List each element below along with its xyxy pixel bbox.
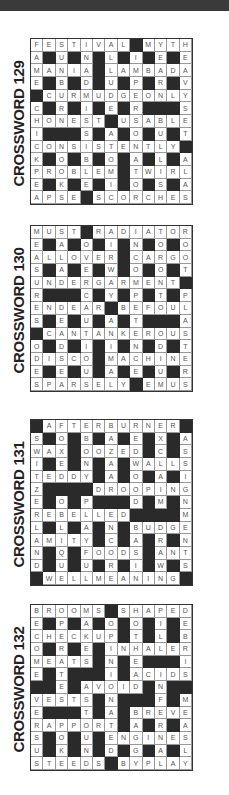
letter-cell[interactable]: A <box>43 445 55 458</box>
letter-cell[interactable]: L <box>167 458 179 471</box>
letter-cell[interactable]: L <box>155 643 167 656</box>
letter-cell[interactable]: C <box>81 289 93 302</box>
letter-cell[interactable]: E <box>56 757 68 770</box>
letter-cell[interactable]: U <box>167 328 179 341</box>
letter-cell[interactable]: F <box>31 39 43 52</box>
letter-cell[interactable]: I <box>81 39 93 52</box>
letter-cell[interactable]: E <box>105 572 117 585</box>
letter-cell[interactable]: A <box>118 353 130 366</box>
letter-cell[interactable]: D <box>105 745 117 758</box>
letter-cell[interactable]: U <box>143 522 155 535</box>
letter-cell[interactable]: E <box>155 707 167 720</box>
letter-cell[interactable]: E <box>130 328 142 341</box>
letter-cell[interactable]: P <box>81 496 93 509</box>
letter-cell[interactable]: D <box>118 226 130 239</box>
letter-cell[interactable]: K <box>31 153 43 166</box>
letter-cell[interactable]: O <box>81 353 93 366</box>
letter-cell[interactable]: N <box>105 522 117 535</box>
letter-cell[interactable]: B <box>118 757 130 770</box>
letter-cell[interactable]: O <box>155 328 167 341</box>
letter-cell[interactable]: Y <box>118 378 130 391</box>
letter-cell[interactable]: V <box>180 77 192 90</box>
letter-cell[interactable]: O <box>180 239 192 252</box>
letter-cell[interactable]: E <box>31 707 43 720</box>
letter-cell[interactable]: R <box>167 166 179 179</box>
letter-cell[interactable]: N <box>105 694 117 707</box>
letter-cell[interactable]: I <box>143 732 155 745</box>
letter-cell[interactable]: I <box>130 560 142 573</box>
letter-cell[interactable]: A <box>105 433 117 446</box>
letter-cell[interactable]: E <box>43 694 55 707</box>
letter-cell[interactable]: E <box>130 656 142 669</box>
letter-cell[interactable]: S <box>56 353 68 366</box>
letter-cell[interactable]: B <box>31 605 43 618</box>
letter-cell[interactable]: E <box>31 668 43 681</box>
letter-cell[interactable]: A <box>143 458 155 471</box>
letter-cell[interactable]: M <box>130 277 142 290</box>
letter-cell[interactable]: S <box>180 668 192 681</box>
letter-cell[interactable]: E <box>31 179 43 192</box>
letter-cell[interactable]: A <box>130 153 142 166</box>
letter-cell[interactable]: D <box>167 64 179 77</box>
letter-cell[interactable]: E <box>167 732 179 745</box>
letter-cell[interactable]: E <box>180 618 192 631</box>
letter-cell[interactable]: I <box>155 618 167 631</box>
letter-cell[interactable]: T <box>105 719 117 732</box>
letter-cell[interactable]: S <box>180 732 192 745</box>
letter-cell[interactable]: Z <box>105 445 117 458</box>
letter-cell[interactable]: P <box>56 618 68 631</box>
letter-cell[interactable]: A <box>155 471 167 484</box>
letter-cell[interactable]: L <box>43 251 55 264</box>
letter-cell[interactable]: E <box>68 302 80 315</box>
letter-cell[interactable]: E <box>105 509 117 522</box>
letter-cell[interactable]: N <box>167 483 179 496</box>
letter-cell[interactable]: C <box>130 251 142 264</box>
letter-cell[interactable]: A <box>105 39 117 52</box>
letter-cell[interactable]: I <box>56 534 68 547</box>
letter-cell[interactable]: R <box>105 251 117 264</box>
letter-cell[interactable]: G <box>93 277 105 290</box>
letter-cell[interactable]: E <box>68 509 80 522</box>
letter-cell[interactable]: Y <box>180 757 192 770</box>
letter-cell[interactable]: G <box>167 572 179 585</box>
letter-cell[interactable]: A <box>130 719 142 732</box>
letter-cell[interactable]: R <box>155 534 167 547</box>
letter-cell[interactable]: A <box>155 745 167 758</box>
letter-cell[interactable]: U <box>105 77 117 90</box>
letter-cell[interactable]: F <box>155 694 167 707</box>
letter-cell[interactable]: C <box>31 141 43 154</box>
letter-cell[interactable]: D <box>130 681 142 694</box>
letter-cell[interactable]: R <box>180 643 192 656</box>
letter-cell[interactable]: E <box>130 433 142 446</box>
letter-cell[interactable]: S <box>180 458 192 471</box>
letter-cell[interactable]: S <box>180 560 192 573</box>
letter-cell[interactable]: O <box>155 302 167 315</box>
letter-cell[interactable]: R <box>118 277 130 290</box>
letter-cell[interactable]: O <box>56 732 68 745</box>
letter-cell[interactable]: S <box>155 179 167 192</box>
letter-cell[interactable]: M <box>81 90 93 103</box>
letter-cell[interactable]: A <box>105 458 117 471</box>
letter-cell[interactable]: A <box>31 191 43 204</box>
letter-cell[interactable]: A <box>143 643 155 656</box>
letter-cell[interactable]: E <box>56 315 68 328</box>
letter-cell[interactable]: A <box>180 315 192 328</box>
letter-cell[interactable]: E <box>155 420 167 433</box>
letter-cell[interactable]: O <box>155 264 167 277</box>
letter-cell[interactable]: I <box>180 471 192 484</box>
letter-cell[interactable]: N <box>155 277 167 290</box>
letter-cell[interactable]: O <box>56 153 68 166</box>
letter-cell[interactable]: A <box>105 226 117 239</box>
letter-cell[interactable]: L <box>167 115 179 128</box>
letter-cell[interactable]: C <box>43 90 55 103</box>
letter-cell[interactable]: D <box>31 353 43 366</box>
letter-cell[interactable]: Y <box>130 757 142 770</box>
letter-cell[interactable]: A <box>180 64 192 77</box>
letter-cell[interactable]: A <box>105 128 117 141</box>
letter-cell[interactable]: A <box>43 719 55 732</box>
letter-cell[interactable]: L <box>118 39 130 52</box>
letter-cell[interactable]: G <box>130 745 142 758</box>
letter-cell[interactable]: M <box>31 64 43 77</box>
letter-cell[interactable]: O <box>56 496 68 509</box>
letter-cell[interactable]: T <box>180 340 192 353</box>
